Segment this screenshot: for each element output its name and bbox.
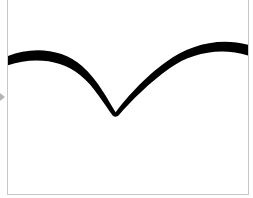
drawing-stage	[0, 0, 253, 198]
stroke-left-arc	[7, 50, 116, 116]
stroke-right-arc	[113, 42, 249, 117]
resize-arrow-icon[interactable]	[0, 93, 5, 101]
drawn-stroke	[7, 0, 249, 195]
drawing-canvas[interactable]	[7, 0, 249, 195]
